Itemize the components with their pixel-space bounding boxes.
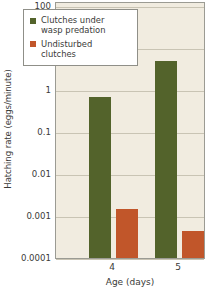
y-axis-tick-label: 1 [46,86,51,95]
gridline [56,133,204,134]
y-axis-tick-label: 0.0001 [21,254,51,263]
x-axis-tick-label-4: 4 [109,262,115,272]
x-axis-title: Age (days) [55,277,205,287]
bar-green-age-4 [89,97,111,259]
chart-legend: Clutches under wasp predation Undisturbe… [23,9,138,66]
legend-label-green: Clutches under wasp predation [41,15,106,36]
gridline [56,175,204,176]
bar-orange-age-4 [116,209,138,258]
legend-swatch-orange [30,41,36,47]
bar-green-age-5 [155,61,177,258]
bar-orange-age-5 [182,231,204,258]
y-axis-tick-label: 0.001 [26,212,51,221]
gridline [56,259,204,260]
gridline [56,91,204,92]
legend-label-orange-line1: Undisturbed [41,39,92,49]
legend-label-orange-line2: clutches [41,49,76,59]
y-axis-tick-label: 0.01 [32,170,51,179]
gridline [56,7,204,8]
legend-item-undisturbed-clutches: Undisturbed clutches [30,39,131,60]
legend-label-orange: Undisturbed clutches [41,39,92,60]
legend-item-clutches-under-wasp-predation: Clutches under wasp predation [30,15,131,36]
legend-label-green-line2: wasp predation [41,25,106,35]
y-axis-tick-label: 0.1 [37,128,51,137]
legend-label-green-line1: Clutches under [41,15,104,25]
legend-swatch-green [30,18,36,24]
x-axis-tick-label-5: 5 [175,262,181,272]
y-axis-title-label: Hatching rate (eggs/minute) [3,69,13,188]
